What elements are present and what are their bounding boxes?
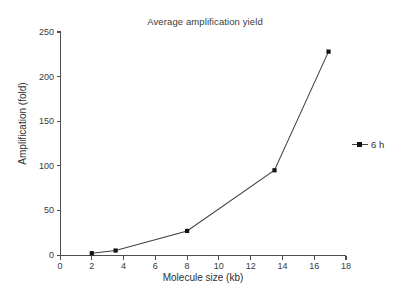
y-tick-label: 100 [26, 161, 54, 171]
x-tick-label: 10 [214, 261, 224, 271]
x-tick-label: 4 [121, 261, 126, 271]
chart-title: Average amplification yield [60, 16, 350, 27]
x-axis-label: Molecule size (kb) [60, 272, 346, 283]
x-tick-label: 2 [89, 261, 94, 271]
data-point [326, 50, 330, 54]
data-point [90, 251, 94, 255]
legend-marker-icon [352, 140, 368, 149]
y-tick-label: 150 [26, 116, 54, 126]
legend-square-icon [357, 142, 362, 147]
x-tick-label: 8 [185, 261, 190, 271]
data-point [114, 248, 118, 252]
y-tick-label: 200 [26, 72, 54, 82]
x-axis-ticks [61, 256, 347, 260]
y-axis-label-wrap: Amplification (fold) [0, 0, 30, 256]
x-tick-label: 16 [309, 261, 319, 271]
plot-canvas [60, 32, 346, 255]
series-markers [90, 50, 331, 256]
legend-label-6h: 6 h [371, 139, 384, 150]
data-point [272, 168, 276, 172]
chart-figure: Average amplification yield Amplificatio… [0, 0, 407, 296]
y-tick-label: 0 [26, 250, 54, 260]
x-tick-label: 6 [153, 261, 158, 271]
x-tick-label: 0 [57, 261, 62, 271]
plot-area: 050100150200250 024681012141618 [60, 32, 346, 255]
y-tick-label: 50 [26, 205, 54, 215]
x-tick-label: 14 [277, 261, 287, 271]
chart-legend: 6 h [352, 139, 384, 150]
y-axis-ticks [57, 32, 61, 256]
x-tick-label: 12 [246, 261, 256, 271]
x-tick-label: 18 [341, 261, 351, 271]
y-tick-label: 250 [26, 27, 54, 37]
series-line-6-h [92, 52, 329, 254]
data-point [185, 229, 189, 233]
series-lines [92, 52, 329, 254]
